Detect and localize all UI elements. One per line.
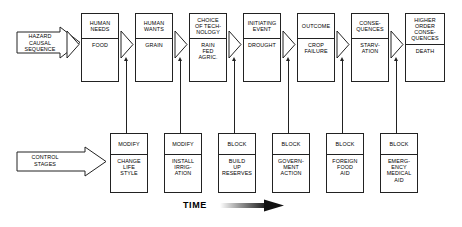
chevron-right-icon-3 [228,30,242,59]
control-stages-label: CONTROL STAGES [20,154,70,167]
chevron-right-icon-2 [174,30,188,59]
stage-box-human-wants[interactable]: HUMAN WANTS GRAIN [135,13,173,82]
time-axis-label: TIME [183,200,207,210]
stage-header: OUTCOME [298,14,334,39]
control-value: FOREIGN FOOD AID [327,155,363,192]
stage-value: RAIN FED AGRIC. [190,39,226,81]
up-arrow-icon-3 [232,57,236,61]
stage-box-outcome[interactable]: OUTCOME CROP FAILURE [297,13,335,82]
stage-value: DROUGHT [244,39,280,81]
chevron-right-icon-6 [390,30,404,59]
chevron-right-icon-4 [282,30,296,59]
right-gradient-arrow-icon [220,199,286,213]
chevron-right-icon-1 [120,30,134,59]
hazard-causal-sequence-label: HAZARD CAUSAL SEQUENCE [18,33,62,53]
stage-box-human-needs[interactable]: HUMAN NEEDS FOOD [81,13,119,82]
control-link-line-3 [234,61,235,133]
control-box-foreign-food-aid[interactable]: BLOCK FOREIGN FOOD AID [326,133,364,193]
stage-header: CONSE- QUENCES [352,14,388,39]
control-value: EMERG- ENCY MEDICAL AID [381,155,417,192]
stage-box-consequences[interactable]: CONSE- QUENCES STARV- ATION [351,13,389,82]
chevron-right-icon-0 [66,30,80,59]
up-arrow-icon-1 [124,57,128,61]
control-link-line-1 [126,61,127,133]
control-value: BUILD UP RESERVES [219,155,255,192]
stage-header: HUMAN NEEDS [82,14,118,39]
up-arrow-icon-5 [340,57,344,61]
stage-header: HUMAN WANTS [136,14,172,39]
control-link-line-4 [288,61,289,133]
stage-header: HIGHER ORDER CONSE- QUENCES [406,14,444,45]
stage-value: STARV- ATION [352,39,388,81]
chevron-right-icon-5 [336,30,350,59]
hazard-causal-sequence-diagram: HAZARD CAUSAL SEQUENCE HUMAN NEEDS FOOD … [0,0,462,227]
up-arrow-icon-2 [178,57,182,61]
up-arrow-icon-4 [286,57,290,61]
control-box-install-irrigation[interactable]: MODIFY INSTALL IRRIG- ATION [164,133,202,193]
control-header: BLOCK [273,134,309,155]
stage-box-higher-order-consequences[interactable]: HIGHER ORDER CONSE- QUENCES DEATH [405,13,445,82]
control-box-emergency-medical-aid[interactable]: BLOCK EMERG- ENCY MEDICAL AID [380,133,418,193]
control-value: INSTALL IRRIG- ATION [165,155,201,192]
stage-header: CHOICE OF TECH- NOLOGY [190,14,226,39]
control-header: MODIFY [165,134,201,155]
control-box-change-life-style[interactable]: MODIFY CHANGE LIFE STYLE [110,133,148,193]
control-box-government-action[interactable]: BLOCK GOVERN- MENT ACTION [272,133,310,193]
control-link-line-2 [180,61,181,133]
control-header: BLOCK [219,134,255,155]
control-value: CHANGE LIFE STYLE [111,155,147,192]
control-header: BLOCK [381,134,417,155]
stage-value: CROP FAILURE [298,39,334,81]
stage-header: INITIATING EVENT [244,14,280,39]
stage-box-choice-of-technology[interactable]: CHOICE OF TECH- NOLOGY RAIN FED AGRIC. [189,13,227,82]
stage-value: DEATH [406,45,444,81]
control-value: GOVERN- MENT ACTION [273,155,309,192]
control-link-line-6 [396,61,397,133]
control-link-line-5 [342,61,343,133]
stage-box-initiating-event[interactable]: INITIATING EVENT DROUGHT [243,13,281,82]
stage-value: FOOD [82,39,118,81]
stage-value: GRAIN [136,39,172,81]
control-header: BLOCK [327,134,363,155]
control-header: MODIFY [111,134,147,155]
control-box-build-up-reserves[interactable]: BLOCK BUILD UP RESERVES [218,133,256,193]
up-arrow-icon-6 [394,57,398,61]
